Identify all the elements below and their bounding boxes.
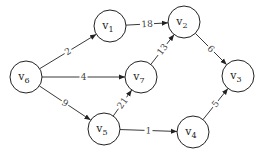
edge-weight-label: 21	[115, 95, 130, 110]
edge-v7-v2: 13	[151, 35, 174, 65]
edge-v6-v1: 2	[40, 34, 97, 68]
edge-v6-v7: 4	[42, 72, 125, 82]
node-v3: v3	[222, 60, 254, 92]
edge-weight-label: 4	[81, 72, 87, 82]
edge-v5-v7: 21	[113, 90, 131, 116]
edge-weight-label: 13	[155, 42, 170, 57]
edge-v6-v5: 9	[39, 86, 90, 120]
node-v6: v6	[10, 61, 42, 93]
node-v5: v5	[88, 113, 120, 145]
graph-diagram: 249181321165 v1v2v3v4v5v6v7	[0, 0, 266, 156]
node-v2: v2	[168, 6, 200, 38]
edge-v5-v4: 1	[120, 125, 177, 135]
edge-weight-label: 1	[145, 125, 151, 135]
node-v1: v1	[94, 10, 126, 42]
edge-weight-label: 18	[141, 19, 153, 30]
edge-v2-v3: 6	[195, 33, 226, 64]
node-v7: v7	[125, 61, 157, 93]
edge-v1-v2: 18	[126, 19, 168, 30]
edge-v4-v3: 5	[203, 88, 228, 119]
node-v4: v4	[177, 116, 209, 148]
